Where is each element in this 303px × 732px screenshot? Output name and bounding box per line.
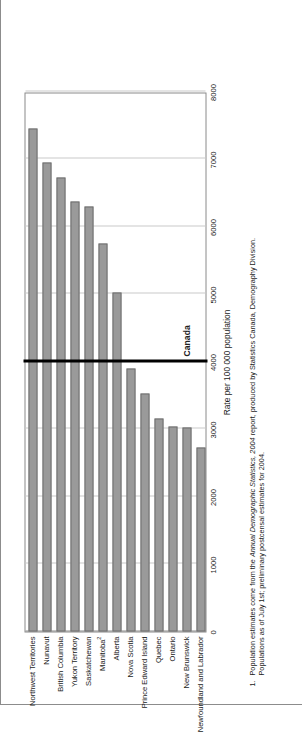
rotated-figure-stage: Northwest TerritoriesNunavutBritish Colu… bbox=[1, 0, 303, 705]
category-label: Alberta bbox=[111, 637, 120, 661]
canada-reference-label: Canada bbox=[182, 325, 192, 356]
plot-area-wrapper: Canada bbox=[25, 93, 207, 633]
tick-label-8000: 8000 bbox=[209, 84, 218, 101]
plot-area: Canada bbox=[25, 93, 207, 633]
bar bbox=[112, 293, 121, 632]
tick-label-1000: 1000 bbox=[209, 557, 218, 574]
tick-label-4000: 4000 bbox=[209, 354, 218, 371]
tick-label-3000: 3000 bbox=[209, 422, 218, 439]
tick-label-2000: 2000 bbox=[209, 489, 218, 506]
bar bbox=[154, 418, 163, 631]
bar bbox=[56, 178, 65, 632]
footnote-text-after: report, produced by Statistics Canada, D… bbox=[248, 238, 257, 438]
figure-page: Northwest TerritoriesNunavutBritish Colu… bbox=[0, 0, 302, 705]
bar bbox=[182, 428, 191, 632]
bar bbox=[126, 368, 135, 631]
category-label: Northwest Territories bbox=[27, 637, 36, 707]
bar bbox=[140, 394, 149, 632]
bar bbox=[168, 427, 177, 632]
bar bbox=[42, 162, 51, 631]
category-label: Prince Edward Island bbox=[139, 637, 148, 709]
category-axis-labels: Northwest TerritoriesNunavutBritish Colu… bbox=[25, 633, 207, 705]
tick-label-0: 0 bbox=[209, 630, 218, 634]
footnote-marker: 1. bbox=[249, 676, 258, 687]
bar bbox=[28, 129, 37, 632]
tick-label-5000: 5000 bbox=[209, 287, 218, 304]
value-axis-title: Rate per 100 000 population bbox=[222, 93, 232, 633]
category-label: Nova Scotia bbox=[125, 637, 134, 678]
bar bbox=[84, 206, 93, 631]
footnote-text: Population estimates come from the Annua… bbox=[249, 19, 266, 676]
tick-label-7000: 7000 bbox=[209, 152, 218, 169]
canada-reference-line bbox=[24, 360, 208, 363]
category-label: Yukon Territory bbox=[69, 637, 78, 688]
bar-series bbox=[26, 94, 206, 632]
footnote-block: 1. Population estimates come from the An… bbox=[249, 19, 266, 687]
category-label: Quebec bbox=[153, 637, 162, 664]
bar bbox=[70, 202, 79, 632]
tick-label-6000: 6000 bbox=[209, 219, 218, 236]
category-label: Ontario bbox=[167, 637, 176, 662]
bar bbox=[98, 243, 107, 631]
category-label: New Brunswick bbox=[181, 637, 190, 689]
category-label: British Columbia bbox=[55, 637, 64, 692]
bar-chart-figure: Northwest TerritoriesNunavutBritish Colu… bbox=[1, 0, 303, 705]
category-label: Manitoba2 bbox=[97, 637, 106, 671]
bar bbox=[196, 448, 205, 632]
footnote-line-2: Populations as of July 1st; preliminary … bbox=[256, 452, 265, 675]
category-label: Newfoundland and Labrador bbox=[195, 637, 204, 732]
category-label: Saskatchewan bbox=[83, 637, 92, 686]
footnote-item: 1. Population estimates come from the An… bbox=[249, 19, 266, 687]
category-label: Nunavut bbox=[41, 637, 50, 665]
category-label-footnote-marker: 2 bbox=[95, 637, 101, 640]
